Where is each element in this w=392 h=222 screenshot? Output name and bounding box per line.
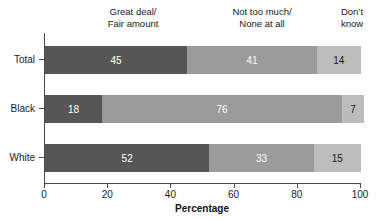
column-header-dont-know: Don’t know [322, 6, 382, 30]
x-tick-mark [297, 183, 298, 188]
bar-value-label: 52 [122, 153, 133, 164]
category-label-white: White [9, 144, 35, 172]
bar-segment: 76 [102, 95, 342, 123]
column-header-line2: Fair amount [78, 18, 188, 30]
bar-stack: 454114 [45, 46, 361, 74]
stacked-bar-chart: Great deal/ Fair amount Not too much/ No… [0, 0, 392, 222]
bar-value-label: 41 [246, 55, 257, 66]
y-tick-white [39, 157, 44, 158]
category-label-black: Black [11, 95, 35, 123]
x-tick-label: 80 [291, 189, 302, 200]
bar-row-white: White 523315 [44, 144, 360, 172]
bar-stack: 18767 [45, 95, 361, 123]
column-header-line2: None at all [212, 18, 312, 30]
x-tick-mark [360, 183, 361, 188]
bar-segment: 18 [45, 95, 102, 123]
x-tick-label: 0 [41, 189, 47, 200]
bar-value-label: 76 [216, 104, 227, 115]
bar-value-label: 45 [111, 55, 122, 66]
column-header-great-deal-fair-amount: Great deal/ Fair amount [78, 6, 188, 30]
category-label-total: Total [14, 46, 35, 74]
column-header-not-too-much-none-at-all: Not too much/ None at all [212, 6, 312, 30]
bar-segment: 52 [45, 144, 209, 172]
bar-value-label: 15 [332, 153, 343, 164]
column-header-line2: know [322, 18, 382, 30]
y-tick-total [39, 59, 44, 60]
bar-value-label: 14 [333, 55, 344, 66]
x-tick-mark [107, 183, 108, 188]
plot-area: Total 454114 Black 18767 White 523315 02… [44, 33, 360, 183]
x-axis-title: Percentage [44, 203, 360, 214]
bar-segment: 7 [342, 95, 364, 123]
bar-segment: 45 [45, 46, 187, 74]
bar-row-total: Total 454114 [44, 46, 360, 74]
x-tick-label: 100 [352, 189, 369, 200]
x-axis-ticks: 020406080100 [44, 183, 361, 205]
column-header-line1: Not too much/ [232, 6, 291, 17]
bar-segment: 14 [317, 46, 361, 74]
x-tick-label: 60 [228, 189, 239, 200]
bar-value-label: 7 [350, 104, 356, 115]
x-tick-label: 20 [102, 189, 113, 200]
y-tick-black [39, 108, 44, 109]
x-tick-mark [170, 183, 171, 188]
column-header-line1: Great deal/ [110, 6, 157, 17]
bar-segment: 33 [209, 144, 313, 172]
bar-stack: 523315 [45, 144, 361, 172]
x-tick-label: 40 [165, 189, 176, 200]
bar-segment: 41 [187, 46, 317, 74]
bar-segment: 15 [314, 144, 361, 172]
bar-value-label: 18 [68, 104, 79, 115]
bar-row-black: Black 18767 [44, 95, 360, 123]
bar-value-label: 33 [256, 153, 267, 164]
x-tick-mark [44, 183, 45, 188]
x-tick-mark [234, 183, 235, 188]
column-headers: Great deal/ Fair amount Not too much/ No… [0, 6, 392, 36]
column-header-line1: Don’t [341, 6, 363, 17]
